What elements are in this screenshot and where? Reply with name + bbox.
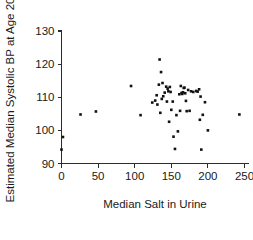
x-tick-label: 200	[198, 170, 217, 182]
data-point	[192, 91, 195, 94]
data-point	[79, 113, 82, 116]
data-point	[187, 89, 190, 92]
y-tick-label: 100	[35, 124, 54, 136]
data-point	[199, 118, 202, 121]
data-point	[183, 86, 186, 89]
y-tick-label: 130	[35, 25, 54, 37]
data-point	[160, 98, 163, 101]
data-point	[177, 130, 180, 133]
data-point	[188, 110, 191, 113]
data-point	[151, 101, 154, 104]
data-points-group	[60, 58, 240, 151]
data-point	[168, 120, 171, 123]
data-point	[200, 148, 203, 151]
data-point	[154, 99, 157, 102]
data-point	[155, 94, 158, 97]
y-tick-label: 90	[42, 158, 55, 170]
y-axis-title: Estimated Median Systolic BP at Age 20	[4, 0, 16, 202]
data-point	[179, 110, 182, 113]
x-tick-group: 050100150200250	[58, 164, 253, 182]
data-point	[185, 100, 188, 103]
data-point	[159, 112, 162, 115]
data-point	[196, 90, 199, 93]
data-point	[201, 114, 204, 117]
y-tick-label: 110	[36, 91, 54, 103]
data-point	[160, 71, 163, 74]
data-point	[175, 114, 178, 117]
data-point	[185, 110, 188, 113]
data-point	[158, 58, 161, 61]
x-tick-label: 0	[58, 170, 64, 182]
data-point	[156, 103, 159, 106]
scatter-plot-figure: 90100110120130 050100150200250 Median Sa…	[0, 0, 253, 240]
data-point	[162, 95, 165, 98]
data-point	[199, 95, 202, 98]
x-tick-label: 50	[92, 170, 105, 182]
data-point	[139, 114, 142, 117]
data-point	[171, 100, 174, 103]
data-point	[161, 82, 164, 85]
data-point	[174, 148, 177, 151]
data-point	[158, 83, 161, 86]
data-point	[204, 101, 207, 104]
x-axis-title: Median Salt in Urine	[103, 198, 207, 210]
y-tick-label: 120	[35, 58, 54, 70]
data-point	[169, 86, 172, 89]
data-point	[238, 113, 241, 116]
x-tick-label: 100	[125, 170, 144, 182]
data-point	[166, 100, 169, 103]
data-point	[170, 109, 173, 112]
y-tick-group: 90100110120130	[35, 25, 61, 170]
x-tick-label: 150	[162, 170, 181, 182]
plot-canvas: 90100110120130 050100150200250 Median Sa…	[0, 0, 253, 240]
data-point	[60, 148, 63, 151]
data-point	[163, 91, 166, 94]
data-point	[62, 136, 65, 139]
data-point	[207, 129, 210, 132]
data-point	[198, 88, 201, 91]
data-point	[172, 135, 175, 138]
data-point	[130, 85, 133, 88]
data-point	[95, 110, 98, 113]
data-point	[184, 92, 187, 95]
data-point	[180, 85, 183, 88]
data-point	[169, 91, 172, 94]
x-tick-label: 250	[235, 170, 253, 182]
